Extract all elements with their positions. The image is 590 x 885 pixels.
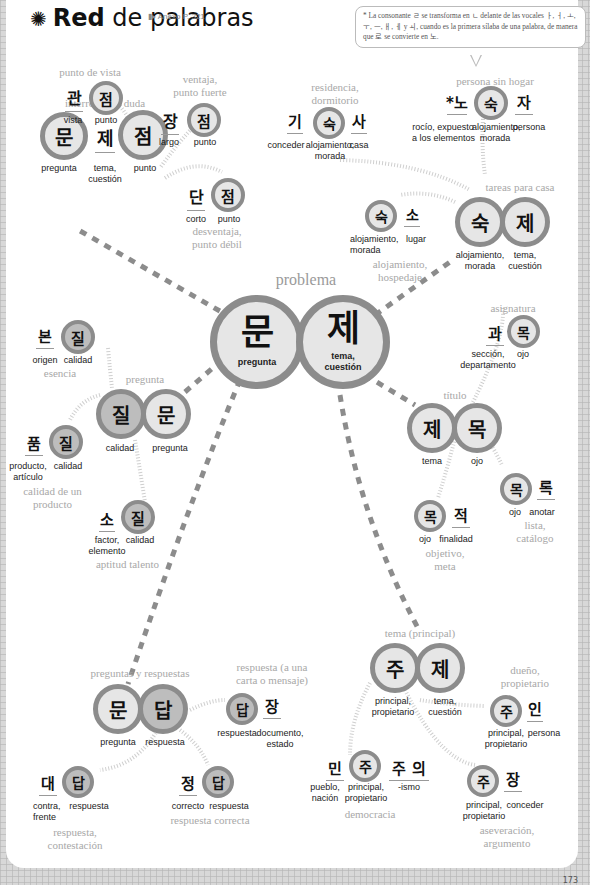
meaning-minjuju: democracia xyxy=(335,808,405,821)
syllable-no: *노 xyxy=(446,91,468,115)
syllable-ju: 주 xyxy=(490,695,522,727)
meaning-pumjil: calidad de un producto xyxy=(10,485,95,511)
annex-reference: ▮▸ Anexo P. 321 xyxy=(148,12,205,21)
syllable-jil: 질 xyxy=(49,425,83,459)
gloss: ojo xyxy=(512,349,534,360)
syllable-mok: 목 xyxy=(452,403,502,453)
syllable-ja: 자 xyxy=(514,91,534,115)
syllable-jang: 장 xyxy=(262,695,282,719)
syllable-mok: 목 xyxy=(500,473,532,505)
meaning-jeongdap: respuesta correcta xyxy=(160,814,260,827)
syllable-ju: 주 xyxy=(467,765,499,797)
syllable-so: 소 xyxy=(98,508,116,532)
syllable-jeom: 점 xyxy=(187,103,221,137)
syllable-ju: 주 xyxy=(370,643,420,693)
syllable-jang: 장 xyxy=(160,108,180,135)
syllable-mun: 문 xyxy=(93,684,143,734)
gloss: documento, estado xyxy=(255,728,305,751)
gloss: finalidad xyxy=(436,534,476,545)
syllable-dap: 답 xyxy=(226,693,258,725)
syllable-bon: 본 xyxy=(35,325,55,349)
syllable-suk: 숙 xyxy=(455,197,505,247)
gloss: corto xyxy=(181,214,211,225)
gloss: pregunta xyxy=(148,443,192,454)
gloss: tema, cuestión xyxy=(505,250,545,273)
gloss: alojamiento, morada xyxy=(450,250,510,273)
syllable-dap: 답 xyxy=(62,766,94,798)
gloss: respuesta xyxy=(206,801,252,812)
syllable-so: 소 xyxy=(403,204,421,227)
gloss: anotar xyxy=(525,507,559,518)
meaning-sukje: tareas para casa xyxy=(470,181,570,194)
gloss: ojo xyxy=(505,507,525,518)
gloss: principal, propietario xyxy=(365,696,421,719)
meaning-gisuksa: residencia, dormitorio xyxy=(290,81,380,107)
syllable-rok: 록 xyxy=(536,476,556,500)
syllable-jueui: 주 의 xyxy=(388,757,430,781)
gloss: punto xyxy=(190,137,220,148)
syllable-suk: 숙 xyxy=(474,86,508,120)
gloss: -ismo xyxy=(392,782,426,793)
center-syllable-mun: 문 pregunta xyxy=(210,295,304,389)
gloss: correcto xyxy=(168,801,208,812)
syllable-jeok: 적 xyxy=(451,504,471,528)
gloss: casa xyxy=(346,140,372,151)
gloss: respuesta xyxy=(140,737,190,748)
center-meaning: problema xyxy=(256,270,356,289)
gloss: principal, propietario xyxy=(340,782,392,805)
meaning-sojil: aptitud talento xyxy=(85,558,170,571)
gloss: calidad xyxy=(60,355,96,366)
gloss: calidad xyxy=(100,443,140,454)
note-tail xyxy=(470,55,482,67)
page-title: ✺Red de palabras xyxy=(30,4,254,32)
syllable-mok: 목 xyxy=(414,500,446,532)
meaning-gwamok: asignatura xyxy=(483,302,543,315)
center-syllable-je: 제 tema, cuestión xyxy=(296,295,390,389)
syllable-sa: 사 xyxy=(350,110,368,134)
gloss: lugar xyxy=(401,234,431,245)
gloss: largo xyxy=(154,137,184,148)
syllable-jeong: 정 xyxy=(178,772,198,796)
meaning-juin: dueño, propietario xyxy=(490,664,560,690)
gloss: persona xyxy=(524,728,564,739)
gloss: contra, frente xyxy=(33,801,63,824)
meaning-dapjang: respuesta (a una carta o mensaje) xyxy=(222,661,322,687)
meaning-mundap: preguntas y respuestas xyxy=(75,667,205,680)
meaning-gwanjeom: punto de vista xyxy=(40,66,140,79)
gloss: pregunta xyxy=(95,737,141,748)
gloss: respuesta xyxy=(214,728,260,739)
gloss: tema xyxy=(417,456,447,467)
syllable-jil: 질 xyxy=(96,389,146,439)
gloss: alojamiento, morada xyxy=(350,234,400,257)
syllable-je: 제 xyxy=(94,124,116,153)
syllable-mok: 목 xyxy=(507,315,540,348)
syllable-jil: 질 xyxy=(61,320,95,354)
pronunciation-note: * La consonante ㄹ se transforma en ㄴ del… xyxy=(355,6,586,48)
gloss: punto xyxy=(128,163,162,174)
syllable-jeom: 점 xyxy=(211,178,245,212)
syllable-jil: 질 xyxy=(121,500,155,534)
meaning-jilmun: pregunta xyxy=(115,373,175,386)
syllable-dae: 대 xyxy=(38,772,58,796)
gloss: pueblo, nación xyxy=(308,782,342,805)
meaning-jemok: título xyxy=(430,389,480,402)
syllable-gi: 기 xyxy=(286,110,304,134)
gloss: tema, cuestión xyxy=(425,696,465,719)
meaning-jangjeom: ventaja, punto fuerte xyxy=(155,73,245,99)
syllable-suk: 숙 xyxy=(365,200,397,232)
syllable-dap: 답 xyxy=(202,766,234,798)
syllable-mun: 문 xyxy=(141,389,191,439)
gloss: conceder xyxy=(266,140,306,151)
gloss: ojo xyxy=(466,456,488,467)
syllable-dap: 답 xyxy=(138,684,188,734)
gloss: tema, cuestión xyxy=(88,163,122,186)
syllable-jang: 장 xyxy=(503,768,523,792)
meaning-jujang: aseveración, argumento xyxy=(467,824,547,850)
meaning-mokjeok: objetivo, meta xyxy=(415,547,475,573)
page-number: 173 xyxy=(563,876,578,885)
meaning-sukso: alojamiento, hospedaje xyxy=(360,258,440,284)
gloss: persona xyxy=(512,122,546,133)
syllable-jeom: 점 xyxy=(89,81,123,115)
meaning-juje: tema (principal) xyxy=(370,627,470,640)
syllable-pum: 품 xyxy=(24,432,44,456)
